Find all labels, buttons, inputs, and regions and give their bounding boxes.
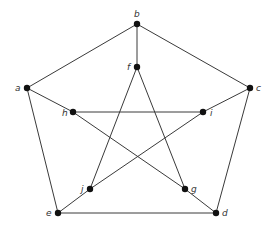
node-label-a: a bbox=[15, 83, 21, 93]
edges-group bbox=[27, 24, 250, 213]
node-h bbox=[70, 109, 76, 115]
edge-b-c bbox=[137, 24, 250, 88]
node-j bbox=[87, 186, 93, 192]
edge-h-g bbox=[73, 112, 185, 189]
edge-e-a bbox=[27, 88, 58, 213]
edge-e-j bbox=[58, 189, 90, 213]
node-label-j: j bbox=[79, 184, 84, 194]
node-label-e: e bbox=[46, 208, 52, 218]
node-label-d: d bbox=[222, 208, 228, 218]
node-b bbox=[134, 21, 140, 27]
edge-f-g bbox=[137, 67, 185, 189]
node-f bbox=[134, 64, 140, 70]
node-label-i: i bbox=[210, 108, 213, 118]
node-label-c: c bbox=[256, 83, 261, 93]
node-label-g: g bbox=[191, 184, 197, 194]
node-e bbox=[55, 210, 61, 216]
node-i bbox=[200, 109, 206, 115]
graph-diagram: abcdefghij bbox=[0, 0, 274, 225]
edge-d-g bbox=[185, 189, 216, 213]
node-c bbox=[247, 85, 253, 91]
node-d bbox=[213, 210, 219, 216]
edge-a-b bbox=[27, 24, 137, 88]
edge-c-d bbox=[216, 88, 250, 213]
nodes-group bbox=[24, 21, 253, 216]
node-a bbox=[24, 85, 30, 91]
edge-i-j bbox=[90, 112, 203, 189]
node-g bbox=[182, 186, 188, 192]
node-label-f: f bbox=[127, 62, 132, 72]
node-label-b: b bbox=[134, 9, 140, 19]
node-label-h: h bbox=[62, 108, 68, 118]
